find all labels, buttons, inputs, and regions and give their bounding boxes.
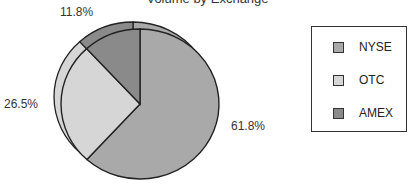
legend-item-nyse: NYSE	[333, 40, 392, 54]
slice-label-amex: 11.8%	[60, 5, 93, 19]
pie-slices	[61, 29, 219, 179]
legend-swatch-nyse	[333, 42, 344, 53]
slice-label-nyse: 61.8%	[231, 119, 265, 133]
legend-label: AMEX	[359, 106, 393, 120]
slice-label-otc: 26.5%	[4, 97, 38, 111]
chart-legend: NYSE OTC AMEX	[311, 26, 407, 132]
legend-swatch-amex	[333, 108, 344, 119]
legend-item-amex: AMEX	[333, 106, 393, 120]
legend-item-otc: OTC	[333, 73, 384, 87]
legend-swatch-otc	[333, 75, 344, 86]
legend-label: OTC	[359, 73, 384, 87]
legend-label: NYSE	[359, 40, 392, 54]
